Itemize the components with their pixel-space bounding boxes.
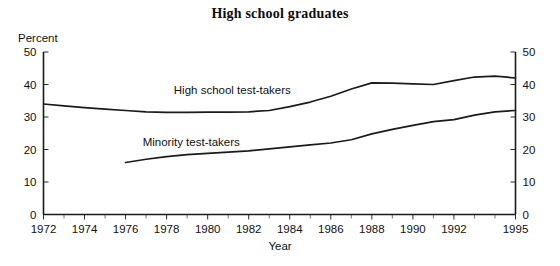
x-tick-label: 1980 [195,223,221,235]
x-tick-label: 1984 [277,223,303,235]
y-tick-label-right: 0 [523,209,529,221]
y-tick-label-right: 20 [523,144,536,156]
series-label-1: Minority test-takers [143,136,240,148]
y-tick-label-right: 10 [523,176,536,188]
x-tick-label: 1976 [113,223,139,235]
y-tick-label-left: 30 [24,111,37,123]
x-tick-label: 1986 [318,223,344,235]
x-tick-label: 1974 [72,223,98,235]
x-tick-label: 1995 [503,223,529,235]
x-axis-title: Year [0,240,560,252]
x-tick-label: 1988 [359,223,385,235]
chart-plot-area: 0010102020303040405050197219741976197819… [0,0,560,266]
x-tick-label: 1978 [154,223,180,235]
axis-tick-labels-group: 0010102020303040405050197219741976197819… [24,46,536,235]
y-tick-label-right: 50 [523,46,536,58]
x-tick-label: 1982 [236,223,262,235]
axis-ticks-group [44,52,516,220]
x-tick-label: 1972 [31,223,57,235]
series-label-0: High school test-takers [174,84,291,96]
y-tick-label-right: 40 [523,79,536,91]
series-labels-group: High school test-takersMinority test-tak… [143,84,291,148]
chart-container: High school graduates Percent 0010102020… [0,0,560,266]
y-tick-label-right: 30 [523,111,536,123]
y-tick-label-left: 40 [24,79,37,91]
y-tick-label-left: 0 [30,209,36,221]
y-tick-label-left: 20 [24,144,37,156]
x-tick-label: 1990 [400,223,426,235]
y-tick-label-left: 50 [24,46,37,58]
x-tick-label: 1992 [441,223,467,235]
axis-lines-group [44,52,516,215]
y-tick-label-left: 10 [24,176,37,188]
